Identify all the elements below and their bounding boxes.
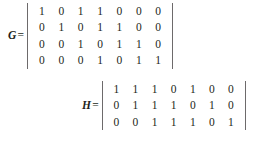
matrix-cell: 0	[58, 36, 64, 52]
matrix-cell: 0	[209, 81, 215, 97]
matrix-cell: 0	[136, 3, 142, 19]
matrix-cell: 1	[97, 3, 103, 19]
matrix-equals-h: =	[91, 99, 99, 111]
matrix-cell: 1	[114, 81, 120, 97]
matrix-label-g: G=	[8, 30, 27, 42]
matrix-label-h-symbol: H	[82, 99, 91, 111]
matrix-cell: 0	[190, 97, 196, 113]
matrix-cell: 1	[117, 36, 123, 52]
matrix-cell: 0	[78, 52, 84, 68]
matrix-equation-g: G= 1011000010110000101100001011	[8, 3, 173, 69]
matrix-cell: 1	[171, 97, 177, 113]
matrix-cell: 0	[58, 3, 64, 19]
matrix-cell: 1	[190, 81, 196, 97]
matrix-cell: 1	[58, 19, 64, 35]
matrix-grid-h: 111010001110100011101	[107, 81, 241, 130]
matrix-equals-g: =	[17, 29, 25, 41]
matrix-cell: 1	[133, 97, 139, 113]
matrix-grid-g: 1011000010110000101100001011	[32, 3, 168, 69]
matrix-cell: 0	[155, 3, 161, 19]
matrix-cell: 1	[152, 114, 158, 130]
matrix-cell: 0	[58, 52, 64, 68]
matrix-cell: 0	[136, 19, 142, 35]
matrix-cell: 0	[155, 36, 161, 52]
matrix-cell: 1	[39, 3, 45, 19]
matrix-cell: 1	[97, 19, 103, 35]
matrix-cell: 0	[171, 81, 177, 97]
matrix-cell: 0	[39, 52, 45, 68]
matrix-cell: 1	[152, 97, 158, 113]
matrix-cell: 0	[114, 97, 120, 113]
matrix-cell: 0	[39, 19, 45, 35]
matrix-cell: 0	[228, 81, 234, 97]
matrix-cell: 1	[152, 81, 158, 97]
matrix-label-h: H=	[82, 100, 102, 112]
matrix-cell: 1	[155, 52, 161, 68]
matrix-cell: 1	[136, 52, 142, 68]
matrix-cell: 1	[78, 36, 84, 52]
matrix-cell: 0	[78, 19, 84, 35]
matrix-cell: 1	[209, 97, 215, 113]
matrix-label-g-symbol: G	[8, 29, 17, 41]
matrix-cell: 0	[39, 36, 45, 52]
matrix-cell: 1	[78, 3, 84, 19]
matrix-body-h: 111010001110100011101	[102, 81, 246, 130]
matrix-cell: 0	[133, 114, 139, 130]
matrix-cell: 0	[97, 36, 103, 52]
matrix-cell: 0	[117, 3, 123, 19]
matrix-body-g: 1011000010110000101100001011	[27, 3, 173, 69]
matrix-cell: 0	[114, 114, 120, 130]
matrix-cell: 0	[155, 19, 161, 35]
matrix-cell: 1	[97, 52, 103, 68]
matrix-cell: 1	[136, 36, 142, 52]
matrix-equation-h: H= 111010001110100011101	[82, 81, 246, 130]
matrix-cell: 0	[209, 114, 215, 130]
matrix-cell: 1	[171, 114, 177, 130]
matrix-cell: 1	[190, 114, 196, 130]
matrix-cell: 1	[117, 19, 123, 35]
matrix-cell: 0	[117, 52, 123, 68]
matrix-cell: 1	[133, 81, 139, 97]
matrix-cell: 0	[228, 97, 234, 113]
matrix-cell: 1	[228, 114, 234, 130]
matrix-figure: G= 1011000010110000101100001011 H= 11101…	[0, 0, 254, 143]
